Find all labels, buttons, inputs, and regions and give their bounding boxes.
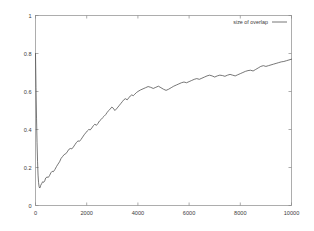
x-tick-label: 6000 — [183, 210, 195, 216]
y-tick-label: 0.2 — [24, 165, 32, 171]
legend-label: size of overlap — [233, 19, 268, 25]
y-tick-label: 0.4 — [24, 127, 32, 133]
x-tick-label: 4000 — [132, 210, 144, 216]
figure-container: 0200040006000800010000 00.20.40.60.81 si… — [0, 0, 314, 231]
x-tick-label: 10000 — [284, 210, 300, 216]
x-tick-label: 2000 — [80, 210, 92, 216]
chart-background — [0, 0, 314, 231]
y-tick-label: 0.6 — [24, 89, 32, 95]
y-tick-label: 1 — [28, 13, 31, 19]
line-chart: 0200040006000800010000 00.20.40.60.81 si… — [0, 0, 314, 231]
x-tick-label: 0 — [34, 210, 37, 216]
y-tick-label: 0.8 — [24, 51, 32, 57]
y-tick-label: 0 — [28, 203, 31, 209]
x-tick-label: 8000 — [234, 210, 246, 216]
